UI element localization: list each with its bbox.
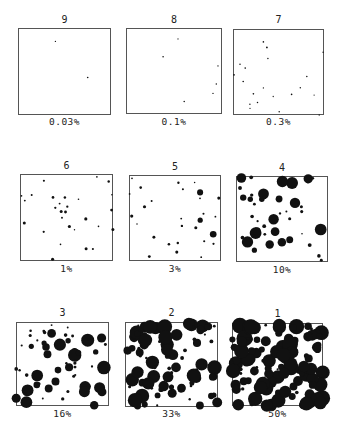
particle — [183, 101, 185, 103]
particle — [136, 223, 138, 225]
particle — [183, 348, 187, 352]
particle — [110, 209, 113, 212]
particle — [91, 365, 93, 367]
particle — [291, 94, 293, 96]
particle — [240, 194, 246, 200]
particle — [177, 242, 179, 244]
particle — [92, 248, 94, 250]
particle — [131, 366, 143, 378]
panel-number: 4 — [236, 162, 328, 173]
volume-fraction-label: 50% — [232, 408, 323, 419]
particle — [169, 384, 174, 389]
particle — [244, 319, 259, 334]
dispersion-panel — [16, 322, 109, 406]
particle — [180, 356, 184, 360]
particle — [55, 41, 56, 42]
particle — [45, 385, 53, 393]
particle — [253, 203, 256, 206]
particle — [250, 193, 253, 196]
particle — [275, 330, 282, 337]
particle — [254, 381, 267, 394]
particle — [137, 325, 139, 327]
particle — [298, 361, 309, 372]
particle — [202, 213, 204, 215]
particle — [248, 347, 255, 354]
particle — [212, 93, 213, 94]
particle — [98, 387, 107, 396]
volume-fraction-label: 1% — [20, 263, 113, 274]
particle — [54, 207, 56, 209]
particle — [273, 96, 274, 97]
particle — [190, 385, 193, 388]
particle — [29, 344, 34, 349]
particle — [290, 347, 297, 354]
particle — [96, 176, 98, 178]
particle — [210, 231, 217, 238]
particle — [183, 318, 195, 330]
particle — [300, 205, 303, 208]
particle — [60, 244, 62, 246]
particle — [315, 224, 327, 236]
particle — [94, 402, 96, 404]
particle — [64, 333, 68, 337]
particle — [37, 382, 40, 385]
particle — [212, 397, 222, 407]
particle — [66, 206, 68, 208]
particle — [306, 76, 308, 78]
particle — [129, 193, 131, 195]
particle — [217, 197, 220, 200]
particle — [162, 56, 164, 58]
particle — [295, 391, 299, 395]
particle — [84, 217, 87, 220]
particle — [43, 331, 46, 334]
particle — [131, 177, 133, 179]
particle — [31, 194, 33, 196]
particle — [249, 108, 250, 109]
particle — [232, 385, 241, 394]
volume-fraction-label: 33% — [125, 408, 218, 419]
particle — [85, 247, 88, 250]
particle — [171, 363, 181, 373]
volume-fraction-label: 0.3% — [233, 116, 324, 127]
particle — [199, 197, 201, 199]
particle — [76, 350, 81, 355]
panel-number: 7 — [233, 14, 324, 25]
particle — [288, 217, 291, 220]
particle — [54, 339, 66, 351]
panel-number: 2 — [125, 307, 218, 318]
particle — [14, 367, 18, 371]
particle — [273, 319, 286, 332]
particle — [244, 67, 246, 69]
particle — [239, 367, 243, 371]
volume-fraction-label: 0.1% — [126, 116, 222, 127]
particle — [290, 324, 297, 331]
particle — [209, 339, 213, 343]
particle — [41, 340, 46, 345]
particle — [22, 384, 34, 396]
particle — [177, 182, 179, 184]
particle — [51, 258, 54, 261]
particle — [43, 180, 45, 182]
particle — [311, 177, 314, 180]
particle — [291, 200, 295, 204]
particle — [263, 41, 265, 43]
particle — [130, 215, 133, 218]
particle — [47, 329, 56, 338]
particle — [24, 200, 26, 202]
particle — [111, 194, 113, 196]
particle — [87, 77, 89, 79]
particle — [21, 195, 23, 197]
particle — [233, 357, 241, 365]
particle — [265, 240, 273, 248]
particle — [200, 256, 202, 258]
particle — [143, 205, 146, 208]
particle — [252, 248, 257, 253]
particle — [67, 327, 69, 329]
particle — [197, 189, 203, 195]
dispersion-panel — [18, 28, 111, 115]
particle — [213, 325, 216, 328]
particle — [195, 358, 207, 370]
particle — [66, 390, 69, 393]
particle — [267, 58, 268, 59]
particle — [137, 347, 140, 350]
